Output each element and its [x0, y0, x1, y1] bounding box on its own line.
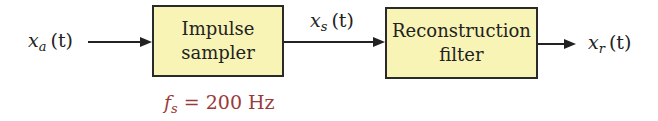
input-symbol: x: [28, 29, 39, 51]
block-2-line-2: filter: [392, 43, 531, 67]
sampling-frequency-label: fs = 200 Hz: [164, 91, 275, 116]
output-symbol: x: [588, 31, 599, 53]
param-value: = 200 Hz: [178, 91, 275, 113]
arrow-input-line: [88, 41, 142, 43]
sampled-subscript: s: [321, 19, 328, 34]
block-1-line-1: Impulse: [181, 17, 255, 41]
sampled-symbol: x: [310, 9, 321, 31]
sampled-signal-label: xs(t): [310, 9, 354, 34]
block-2-line-1: Reconstruction: [392, 19, 531, 43]
impulse-sampler-block: Impulse sampler: [152, 5, 284, 77]
output-arg: (t): [609, 31, 631, 53]
input-subscript: a: [39, 39, 47, 54]
block-1-line-2: sampler: [181, 41, 255, 65]
arrow-sampled-line: [284, 41, 375, 43]
arrow-output-head-icon: [564, 39, 576, 49]
reconstruction-filter-block: Reconstruction filter: [385, 7, 538, 79]
input-arg: (t): [50, 29, 72, 51]
input-signal-label: xa(t): [28, 29, 73, 54]
sampled-arg: (t): [331, 9, 353, 31]
output-subscript: r: [599, 41, 605, 56]
param-symbol: f: [164, 91, 171, 113]
arrow-input-head-icon: [140, 37, 152, 47]
param-subscript: s: [171, 101, 178, 116]
arrow-sampled-head-icon: [373, 37, 385, 47]
arrow-output-line: [538, 43, 566, 45]
output-signal-label: xr(t): [588, 31, 631, 56]
